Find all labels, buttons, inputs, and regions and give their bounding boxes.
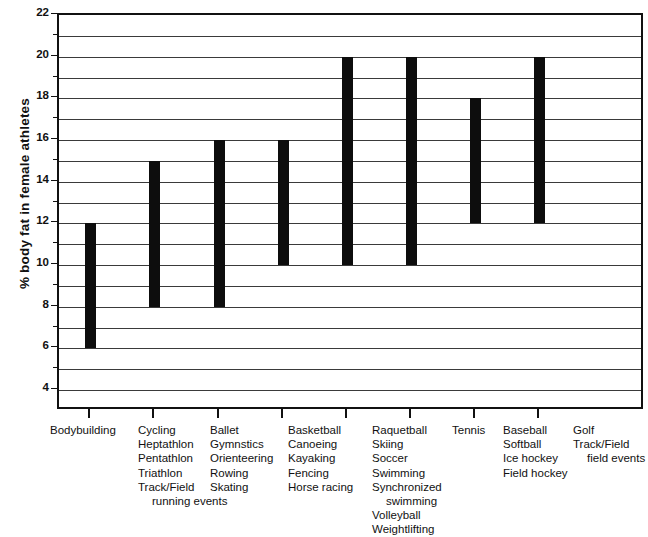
x-label-line: field events [573, 451, 645, 465]
gridline [59, 36, 641, 37]
y-tick-label: 12 [5, 214, 49, 226]
y-tick-mark-major [51, 138, 57, 139]
y-tick-mark-minor [53, 367, 57, 368]
gridline [59, 328, 641, 329]
x-tick-mark [152, 409, 154, 418]
y-tick-mark-major [51, 305, 57, 306]
y-tick-mark-major [51, 180, 57, 181]
y-tick-mark-major [51, 263, 57, 264]
bar-ballet-group [214, 140, 225, 307]
y-tick-label: 10 [5, 256, 49, 268]
x-label-line: Swimming [372, 466, 442, 480]
gridline [59, 286, 641, 287]
x-label-line: Golf [573, 423, 645, 437]
x-label-line: Synchronized [372, 480, 442, 494]
y-tick-label: 6 [5, 339, 49, 351]
bar-basketball-group [278, 140, 289, 265]
gridline [59, 348, 641, 349]
x-label-line: Weightlifting [372, 522, 442, 536]
x-tick-mark [409, 409, 411, 418]
gridline [59, 369, 641, 370]
x-label-line: Canoeing [288, 437, 353, 451]
y-tick-mark-major [51, 346, 57, 347]
y-tick-label: 14 [5, 173, 49, 185]
y-tick-label: 8 [5, 298, 49, 310]
x-group-label-tennis: Tennis [452, 423, 485, 437]
x-label-line: Skating [210, 480, 273, 494]
x-label-line: Track/Field [573, 437, 645, 451]
x-tick-mark [473, 409, 475, 418]
x-label-line: Baseball [503, 423, 568, 437]
x-label-line: Bodybuilding [50, 423, 116, 437]
x-tick-mark [345, 409, 347, 418]
x-label-line: Basketball [288, 423, 353, 437]
x-group-label-basketball-group: BasketballCanoeingKayakingFencingHorse r… [288, 423, 353, 494]
x-label-line: Volleyball [372, 508, 442, 522]
bar-baseball-group [470, 98, 481, 223]
bar-golf-group [534, 57, 545, 224]
x-label-line: Skiing [372, 437, 442, 451]
x-label-line: Horse racing [288, 480, 353, 494]
x-label-line: Orienteering [210, 451, 273, 465]
bar-raquetball-group [342, 57, 353, 265]
y-tick-mark-minor [53, 117, 57, 118]
x-tick-mark [281, 409, 283, 418]
x-label-line: running events [138, 494, 227, 508]
y-tick-label: 22 [5, 6, 49, 18]
gridline [59, 307, 641, 308]
y-tick-label: 16 [5, 131, 49, 143]
x-label-line: Gymnstics [210, 437, 273, 451]
bar-cycling-group [149, 161, 160, 307]
y-tick-mark-minor [53, 76, 57, 77]
y-tick-mark-major [51, 13, 57, 14]
x-label-line: Fencing [288, 466, 353, 480]
y-tick-mark-minor [53, 326, 57, 327]
y-tick-mark-minor [53, 242, 57, 243]
x-group-label-bodybuilding: Bodybuilding [50, 423, 116, 437]
y-tick-mark-major [51, 221, 57, 222]
x-label-line: Kayaking [288, 451, 353, 465]
plot-area [57, 13, 643, 409]
gridline [59, 265, 641, 266]
x-tick-mark [537, 409, 539, 418]
x-label-line: Softball [503, 437, 568, 451]
gridline [59, 390, 641, 391]
x-tick-mark [88, 409, 90, 418]
y-tick-mark-minor [53, 34, 57, 35]
y-tick-label: 4 [5, 381, 49, 393]
x-label-line: Field hockey [503, 466, 568, 480]
y-tick-mark-major [51, 55, 57, 56]
x-group-label-ballet-group: BalletGymnsticsOrienteeringRowingSkating [210, 423, 273, 494]
x-group-label-raquetball-group: RaquetballSkiingSoccerSwimmingSynchroniz… [372, 423, 442, 537]
x-tick-mark [217, 409, 219, 418]
x-label-line: Ballet [210, 423, 273, 437]
y-tick-mark-major [51, 388, 57, 389]
bar-tennis [406, 57, 417, 265]
y-tick-label: 18 [5, 89, 49, 101]
x-group-label-baseball-group: BaseballSoftballIce hockeyField hockey [503, 423, 568, 480]
x-label-line: swimming [372, 494, 442, 508]
x-label-line: Ice hockey [503, 451, 568, 465]
y-tick-label: 20 [5, 48, 49, 60]
x-label-line: Raquetball [372, 423, 442, 437]
bar-bodybuilding [85, 223, 96, 348]
y-tick-mark-minor [53, 159, 57, 160]
x-label-line: Rowing [210, 466, 273, 480]
x-group-label-golf-group: GolfTrack/Fieldfield events [573, 423, 645, 466]
x-label-line: Soccer [372, 451, 442, 465]
y-tick-mark-minor [53, 284, 57, 285]
y-tick-mark-major [51, 96, 57, 97]
x-label-line: Tennis [452, 423, 485, 437]
y-tick-mark-minor [53, 201, 57, 202]
